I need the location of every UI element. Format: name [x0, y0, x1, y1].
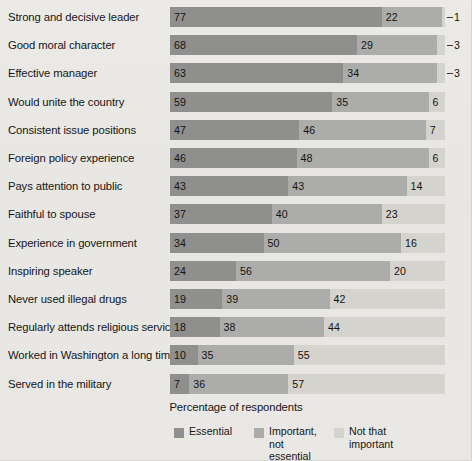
bar-segment — [170, 63, 343, 83]
stacked-bar: 345016 — [170, 233, 445, 253]
segment-value: 34 — [347, 63, 359, 83]
stacked-bar: 63343 — [170, 63, 445, 83]
segment-value: 7 — [430, 120, 436, 140]
stacked-bar: 47467 — [170, 120, 445, 140]
segment-value: 16 — [405, 233, 417, 253]
segment-value: 19 — [174, 289, 186, 309]
segment-value: 10 — [174, 345, 186, 365]
segment-value: 36 — [193, 374, 205, 394]
segment-value: 68 — [174, 35, 186, 55]
segment-value: 20 — [394, 261, 406, 281]
bar-segment — [297, 148, 429, 168]
bar-row: Pays attention to public434314 — [0, 175, 472, 197]
segment-value-outside: 3 — [447, 63, 460, 83]
segment-value: 43 — [174, 176, 186, 196]
bar-segment — [170, 35, 357, 55]
segment-value: 56 — [240, 261, 252, 281]
category-label: Never used illegal drugs — [8, 288, 165, 310]
legend-label: Not that important — [349, 425, 393, 450]
category-label: Strong and decisive leader — [8, 6, 165, 28]
segment-value: 29 — [361, 35, 373, 55]
bar-row: Regularly attends religious services1838… — [0, 316, 472, 338]
category-label: Inspiring speaker — [8, 260, 165, 282]
chart-legend: EssentialImportant, not essentialNot tha… — [0, 425, 472, 459]
stacked-bar: 46486 — [170, 148, 445, 168]
leader-dash-icon — [447, 45, 453, 46]
category-label: Pays attention to public — [8, 175, 165, 197]
segment-value: 22 — [386, 7, 398, 27]
segment-value: 47 — [174, 120, 186, 140]
segment-value: 3 — [454, 39, 460, 51]
category-label: Worked in Washington a long time — [8, 344, 165, 366]
legend-label: Important, not essential — [269, 425, 317, 461]
bar-row: Experience in government345016 — [0, 232, 472, 254]
category-label: Experience in government — [8, 232, 165, 254]
legend-swatch-icon — [174, 428, 184, 438]
bar-row: Worked in Washington a long time103555 — [0, 344, 472, 366]
legend-label: Essential — [189, 425, 232, 438]
bar-row: Strong and decisive leader77221 — [0, 6, 472, 28]
legend-swatch-icon — [254, 428, 264, 438]
bar-segment — [437, 63, 445, 83]
segment-value: 37 — [174, 204, 186, 224]
stacked-bar: 77221 — [170, 7, 445, 27]
segment-value: 7 — [174, 374, 180, 394]
bar-segment — [170, 120, 299, 140]
stacked-bar: 245620 — [170, 261, 445, 281]
segment-value: 59 — [174, 92, 186, 112]
segment-value: 6 — [433, 92, 439, 112]
segment-value-outside: 3 — [447, 35, 460, 55]
category-label: Good moral character — [8, 34, 165, 56]
segment-value: 35 — [336, 92, 348, 112]
stacked-bar: 103555 — [170, 345, 445, 365]
bar-segment — [324, 317, 445, 337]
bar-row: Served in the military73657 — [0, 373, 472, 395]
segment-value: 57 — [292, 374, 304, 394]
bar-row: Faithful to spouse374023 — [0, 203, 472, 225]
bar-segment — [288, 374, 445, 394]
segment-value: 34 — [174, 233, 186, 253]
segment-value: 48 — [301, 148, 313, 168]
bar-segment — [170, 176, 288, 196]
bar-segment — [299, 120, 426, 140]
segment-value: 46 — [174, 148, 186, 168]
stacked-bar: 374023 — [170, 204, 445, 224]
bar-row: Never used illegal drugs193942 — [0, 288, 472, 310]
segment-value-outside: 1 — [447, 7, 460, 27]
segment-value: 39 — [226, 289, 238, 309]
bar-segment — [236, 261, 390, 281]
category-label: Consistent issue positions — [8, 119, 165, 141]
segment-value: 77 — [174, 7, 186, 27]
bar-segment — [288, 176, 406, 196]
bar-segment — [442, 7, 445, 27]
bar-segment — [437, 35, 445, 55]
segment-value: 46 — [303, 120, 315, 140]
bar-row: Inspiring speaker245620 — [0, 260, 472, 282]
segment-value: 43 — [292, 176, 304, 196]
bar-row: Effective manager63343 — [0, 62, 472, 84]
category-label: Effective manager — [8, 62, 165, 84]
bar-segment — [222, 289, 329, 309]
stacked-bar: 68293 — [170, 35, 445, 55]
category-label: Served in the military — [8, 373, 165, 395]
bar-row: Good moral character68293 — [0, 34, 472, 56]
segment-value: 14 — [411, 176, 423, 196]
bar-segment — [170, 92, 332, 112]
segment-value: 23 — [386, 204, 398, 224]
bar-row: Would unite the country59356 — [0, 91, 472, 113]
bar-segment — [294, 345, 445, 365]
chart-frame: Strong and decisive leader77221Good mora… — [0, 0, 472, 461]
leader-dash-icon — [447, 17, 453, 18]
bar-row: Consistent issue positions47467 — [0, 119, 472, 141]
segment-value: 38 — [224, 317, 236, 337]
segment-value: 63 — [174, 63, 186, 83]
stacked-bar: 59356 — [170, 92, 445, 112]
bar-segment — [264, 233, 402, 253]
segment-value: 55 — [298, 345, 310, 365]
segment-value: 24 — [174, 261, 186, 281]
leader-dash-icon — [447, 73, 453, 74]
bar-segment — [330, 289, 446, 309]
segment-value: 3 — [454, 67, 460, 79]
bar-segment — [170, 7, 382, 27]
segment-value: 35 — [202, 345, 214, 365]
